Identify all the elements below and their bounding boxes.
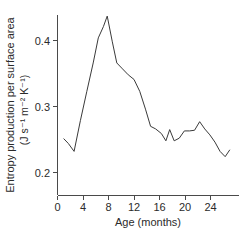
y-axis-ticks (53, 41, 58, 173)
x-axis-title: Age (months) (115, 216, 181, 228)
y-tick-label: 0.4 (35, 35, 50, 47)
x-tick-label: 20 (179, 201, 191, 213)
y-tick-label: 0.2 (35, 167, 50, 179)
chart-figure: 0.4 0.3 0.2 0 4 8 12 16 20 24 Age (month… (0, 0, 245, 230)
y-tick-label: 0.3 (35, 101, 50, 113)
x-axis-ticks (58, 196, 211, 201)
y-axis-title-line2: (J s⁻¹ m⁻² K⁻¹) (18, 75, 30, 146)
y-axis-title-line1: Entropy production per surface area (4, 16, 16, 192)
x-tick-label: 12 (128, 201, 140, 213)
data-series-line (64, 16, 230, 157)
x-tick-label: 4 (80, 201, 86, 213)
x-tick-label: 0 (54, 201, 60, 213)
x-tick-label: 8 (105, 201, 111, 213)
chart-plot-area: 0.4 0.3 0.2 0 4 8 12 16 20 24 Age (month… (0, 0, 245, 230)
x-tick-label: 16 (153, 201, 165, 213)
x-tick-label: 24 (204, 201, 216, 213)
